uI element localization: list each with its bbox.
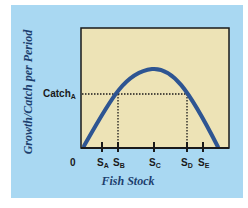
plot-area — [81, 28, 229, 148]
origin-label: 0 — [70, 157, 76, 168]
tick-label-sd: SD — [181, 157, 193, 169]
tick-label-sc: SC — [149, 157, 161, 169]
catch-a-label: CatchA — [43, 88, 76, 100]
tick-label-sa: SA — [97, 157, 109, 169]
chart: 0 SA SB SC SD SE CatchA Fish Stock Growt… — [0, 0, 248, 208]
y-axis-title: Growth/Catch per Period — [21, 29, 35, 155]
tick-label-sb: SB — [113, 157, 125, 169]
x-axis-title: Fish Stock — [100, 174, 154, 188]
tick-label-se: SE — [198, 157, 210, 169]
